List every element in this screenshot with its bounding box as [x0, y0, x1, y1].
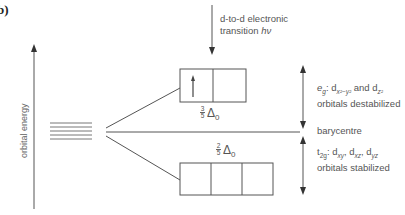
t2g-orbital-box — [180, 163, 273, 195]
eg-fraction: 35 — [200, 106, 205, 119]
t2g-fraction: 25 — [216, 143, 221, 156]
t2g-annotation-line2: orbitals stabilized — [317, 162, 390, 174]
t2g-energy-label: 25Δ0 — [216, 140, 235, 159]
transition-label-line2: transition hν — [220, 25, 288, 37]
h-nu-symbol: hν — [261, 25, 271, 36]
eg-orbital-box — [180, 69, 246, 102]
transition-label-line1: d-to-d electronic — [220, 13, 288, 25]
delta-symbol: Δ0 — [223, 143, 235, 157]
axis-arrowhead-icon — [31, 44, 37, 52]
eg-annotation: eg: dx²−y² and dz² orbitals destabilized — [317, 82, 400, 110]
panel-label: b) — [0, 2, 9, 18]
t2g-annotation: t2g: dxy, dxz, dyz orbitals stabilized — [317, 146, 390, 174]
t2g-energy-gap-arrow — [300, 136, 306, 195]
eg-energy-gap-arrow — [300, 65, 306, 129]
barycentre-label: barycentre — [317, 125, 362, 137]
transition-label: d-to-d electronic transition hν — [220, 13, 288, 37]
delta-symbol: Δ0 — [207, 106, 219, 120]
eg-annotation-line2: orbitals destabilized — [317, 98, 400, 110]
t2g-annotation-line1: t2g: dxy, dxz, dyz — [317, 146, 390, 162]
energy-axis — [31, 44, 37, 209]
degenerate-d-orbitals — [50, 123, 92, 139]
eg-energy-label: 35Δ0 — [200, 103, 219, 122]
transition-arrow — [209, 5, 215, 55]
eg-annotation-line1: eg: dx²−y² and dz² — [317, 82, 400, 98]
orbital-energy-axis-label: orbital energy — [19, 103, 29, 158]
electron-up-arrow-icon — [191, 75, 195, 97]
arrow-down-icon — [209, 47, 215, 55]
